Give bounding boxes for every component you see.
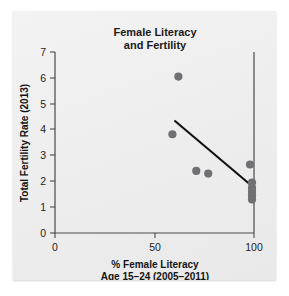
- data-point: [246, 160, 254, 168]
- y-tick-label-5: 5: [40, 98, 46, 110]
- data-point: [174, 72, 182, 80]
- data-point: [248, 195, 256, 203]
- data-point: [204, 169, 212, 177]
- x-axis-title-line-2: Age 15–24 (2005–2011): [101, 271, 209, 280]
- chart-figure: Female Literacy and Fertility 0 1 2 3: [0, 0, 289, 296]
- x-tick-label-100: 100: [245, 241, 263, 253]
- x-axis-tick-labels: 0 50 100: [52, 241, 263, 253]
- scatter-plot-svg: Female Literacy and Fertility 0 1 2 3: [13, 11, 276, 280]
- data-points-group: [168, 72, 256, 203]
- x-tick-label-0: 0: [52, 241, 58, 253]
- chart-title-line-1: Female Literacy: [113, 26, 197, 38]
- y-tick-label-0: 0: [40, 227, 46, 239]
- data-point: [192, 167, 200, 175]
- y-axis-title: Total Fertility Rate (2013): [19, 84, 30, 202]
- trend-line: [174, 121, 254, 188]
- y-axis-ticks: [50, 52, 55, 233]
- data-point: [168, 130, 176, 138]
- y-tick-label-6: 6: [40, 72, 46, 84]
- chart-panel: Female Literacy and Fertility 0 1 2 3: [13, 11, 276, 280]
- y-tick-label-7: 7: [40, 46, 46, 58]
- y-tick-label-1: 1: [40, 201, 46, 213]
- y-axis-tick-labels: 0 1 2 3 4 5 6 7: [40, 46, 46, 239]
- x-tick-label-50: 50: [149, 241, 161, 253]
- chart-title-line-2: and Fertility: [124, 39, 187, 51]
- y-tick-label-2: 2: [40, 175, 46, 187]
- x-axis-title-line-1: % Female Literacy: [111, 259, 199, 270]
- y-tick-label-4: 4: [40, 123, 46, 135]
- x-axis-ticks: [55, 233, 254, 238]
- y-tick-label-3: 3: [40, 149, 46, 161]
- axis-lines: [55, 52, 254, 233]
